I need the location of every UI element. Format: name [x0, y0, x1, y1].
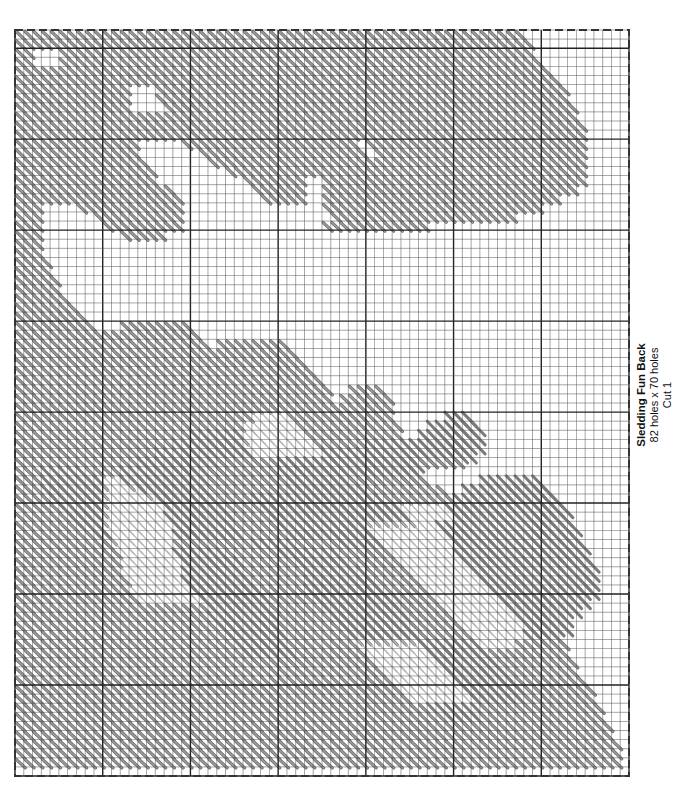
pattern-title: Sledding Fun Back: [635, 343, 648, 447]
pattern-cut-count: Cut 1: [661, 343, 674, 447]
needlepoint-chart: [0, 0, 699, 794]
pattern-size: 82 holes x 70 holes: [648, 343, 661, 447]
caption-text-block: Sledding Fun Back 82 holes x 70 holes Cu…: [635, 343, 674, 447]
pattern-caption: Sledding Fun Back 82 holes x 70 holes Cu…: [604, 330, 699, 460]
